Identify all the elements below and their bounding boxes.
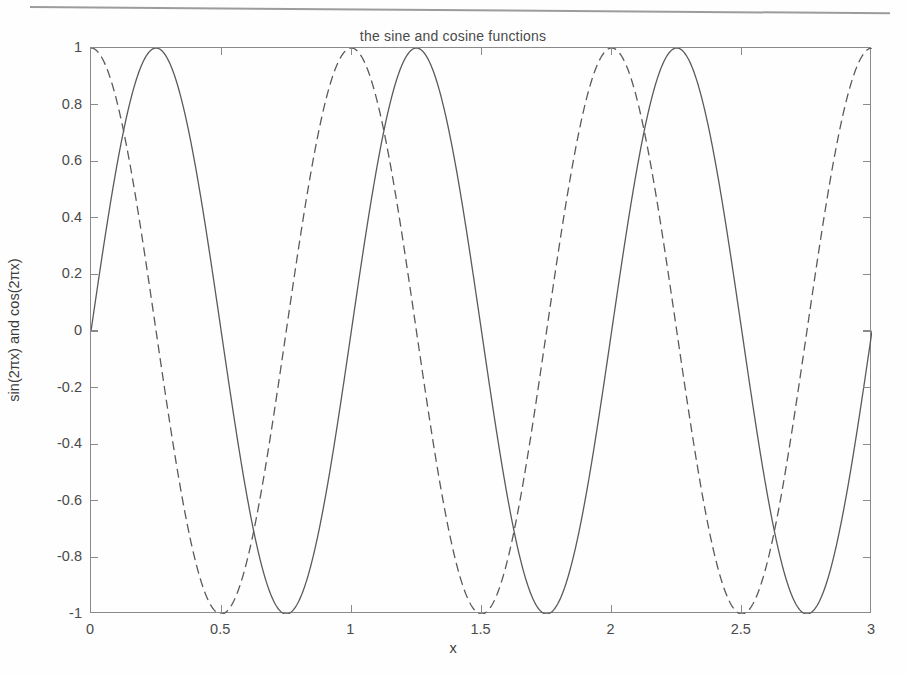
x-tick-label: 1.5 — [470, 621, 490, 637]
y-axis-title: sin(2πx) and cos(2πx) — [6, 258, 22, 401]
y-tick-mark — [863, 330, 870, 331]
y-tick-label: 1 — [74, 39, 82, 55]
plot-curves — [91, 48, 872, 614]
y-tick-label: -0.6 — [57, 492, 82, 508]
x-tick-mark — [351, 48, 352, 55]
plot-area — [90, 47, 871, 613]
x-tick-mark — [611, 48, 612, 55]
y-tick-mark — [863, 444, 870, 445]
y-tick-mark — [863, 500, 870, 501]
y-tick-mark — [91, 161, 98, 162]
y-tick-label: 0.8 — [62, 96, 82, 112]
x-tick-mark — [221, 605, 222, 612]
x-tick-mark — [481, 48, 482, 55]
y-tick-label: -1 — [69, 605, 82, 621]
y-tick-label: -0.2 — [57, 379, 82, 395]
plot-figure: the sine and cosine functions 00.511.522… — [0, 0, 906, 675]
y-tick-mark — [91, 217, 98, 218]
y-tick-label: 0.6 — [62, 152, 82, 168]
y-tick-mark — [863, 104, 870, 105]
y-tick-mark — [91, 330, 98, 331]
y-tick-mark — [863, 274, 870, 275]
x-tick-mark — [611, 605, 612, 612]
y-tick-mark — [863, 387, 870, 388]
x-tick-mark — [481, 605, 482, 612]
y-tick-mark — [863, 161, 870, 162]
y-tick-mark — [863, 557, 870, 558]
sine-curve — [91, 48, 872, 614]
y-tick-mark — [91, 104, 98, 105]
x-tick-mark — [221, 48, 222, 55]
y-tick-mark — [863, 217, 870, 218]
x-tick-label: 0.5 — [210, 621, 230, 637]
y-tick-label: 0 — [74, 322, 82, 338]
y-tick-label: -0.4 — [57, 435, 82, 451]
y-tick-mark — [91, 500, 98, 501]
chart-title: the sine and cosine functions — [0, 28, 906, 44]
y-tick-label: 0.4 — [62, 209, 82, 225]
x-tick-mark — [741, 48, 742, 55]
y-tick-label: 0.2 — [62, 265, 82, 281]
y-tick-mark — [91, 387, 98, 388]
x-tick-label: 2 — [607, 621, 615, 637]
y-tick-mark — [91, 557, 98, 558]
x-tick-label: 1 — [346, 621, 354, 637]
x-tick-label: 3 — [867, 621, 875, 637]
y-tick-mark — [91, 444, 98, 445]
x-tick-mark — [741, 605, 742, 612]
x-tick-label: 2.5 — [731, 621, 751, 637]
y-tick-mark — [91, 274, 98, 275]
x-tick-label: 0 — [86, 621, 94, 637]
x-axis-title: x — [0, 640, 906, 656]
y-tick-label: -0.8 — [57, 548, 82, 564]
x-tick-mark — [351, 605, 352, 612]
figure-page: the sine and cosine functions 00.511.522… — [0, 0, 906, 675]
